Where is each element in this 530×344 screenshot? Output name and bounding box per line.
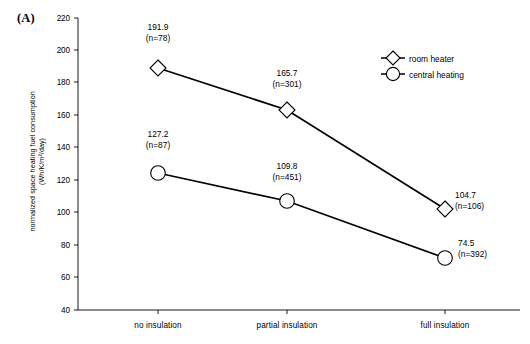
marker-circle-central-heating-1 xyxy=(280,194,295,209)
marker-diamond-room-heater-2 xyxy=(437,201,453,217)
legend-marker-circle-icon xyxy=(386,67,399,80)
marker-diamond-room-heater-0 xyxy=(150,60,166,76)
marker-circle-central-heating-0 xyxy=(151,166,166,181)
x-tick-marks xyxy=(158,310,445,314)
series-line-room-heater xyxy=(158,68,445,209)
series-markers-room-heater xyxy=(150,60,453,217)
legend-sample-room-heater xyxy=(381,51,405,65)
plot-canvas xyxy=(0,0,530,344)
y-tick-marks xyxy=(74,18,78,310)
marker-circle-central-heating-2 xyxy=(438,251,453,266)
legend-marker-diamond-icon xyxy=(386,51,400,65)
figure-panel-a: (A) normalized space heating fuel consum… xyxy=(0,0,530,344)
legend-sample-central-heating xyxy=(381,67,405,80)
series-line-central-heating xyxy=(158,173,445,258)
marker-diamond-room-heater-1 xyxy=(279,102,295,118)
